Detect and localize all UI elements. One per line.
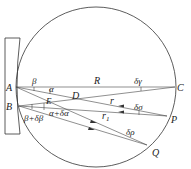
line-B-Q xyxy=(19,106,147,145)
label-R: R xyxy=(93,75,100,86)
label-beta: β xyxy=(31,76,37,86)
label-B: B xyxy=(6,101,12,112)
line-A-P xyxy=(16,87,167,116)
line-B-C xyxy=(19,87,175,106)
rowland-circle-diagram: A B C P Q D E R r r1 β α β+δβ α+δα δγ δσ… xyxy=(0,0,191,169)
label-Q: Q xyxy=(152,147,160,158)
arrow-icon-bq xyxy=(88,127,95,130)
label-delta-rho: δρ xyxy=(126,127,135,137)
label-alpha-plus: α+δα xyxy=(49,108,69,118)
label-delta-sigma: δσ xyxy=(134,102,143,112)
label-A: A xyxy=(5,82,13,93)
label-beta-plus: β+δβ xyxy=(23,113,44,123)
label-E: E xyxy=(45,96,52,106)
label-C: C xyxy=(177,82,184,93)
label-P: P xyxy=(170,114,177,125)
label-delta-gamma: δγ xyxy=(134,76,142,86)
label-D: D xyxy=(71,90,80,101)
arrow-icon-aq xyxy=(90,120,97,123)
label-alpha: α xyxy=(49,84,54,94)
label-r: r xyxy=(110,95,114,106)
